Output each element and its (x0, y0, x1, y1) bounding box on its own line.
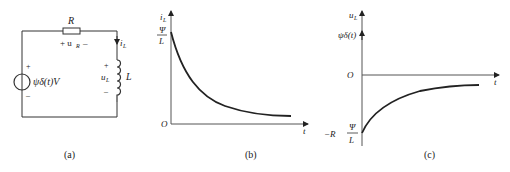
caption-c: (c) (424, 149, 435, 161)
y-tick-denominator: L (348, 135, 354, 145)
origin-label: O (347, 70, 354, 80)
inductor-voltage-sub: L (105, 77, 110, 83)
chart-c: u L ψδ(t) O t −R Ψ L (c) (324, 10, 499, 161)
impulse-label: ψδ(t) (338, 30, 356, 40)
y-tick-numerator: Ψ (349, 122, 356, 132)
x-axis-label: t (494, 77, 497, 87)
inductor-label: L (125, 71, 132, 82)
source-plus: + (26, 62, 31, 71)
y-tick-denominator: L (158, 36, 164, 46)
y-tick-numerator: Ψ (159, 25, 166, 35)
resistor-voltage-sub: R (75, 43, 80, 49)
origin-label: O (161, 119, 168, 129)
circuit-diagram: R + u R – i L + – ψδ(t)V L + u L – (a) (14, 15, 132, 161)
rise-curve (362, 85, 479, 133)
chart-b: i L Ψ L O t (b) (157, 11, 308, 161)
inductor-icon (117, 60, 121, 102)
resistor-label: R (67, 15, 74, 26)
inductor-plus: + (104, 61, 109, 70)
resistor-voltage-minus: – (82, 38, 88, 48)
source-label: ψδ(t)V (33, 76, 61, 88)
y-tick-prefix: −R (324, 129, 336, 139)
resistor-voltage-plus: + u (60, 38, 72, 48)
decay-curve (171, 32, 291, 116)
y-axis-sub: L (353, 15, 358, 21)
source-minus: – (25, 91, 31, 100)
y-axis-sub: L (162, 17, 167, 23)
caption-b: (b) (245, 149, 257, 161)
inductor-minus: – (103, 87, 109, 96)
current-sub: L (122, 43, 127, 49)
resistor-icon (63, 28, 80, 34)
caption-a: (a) (64, 149, 75, 161)
x-axis-label: t (303, 126, 306, 136)
